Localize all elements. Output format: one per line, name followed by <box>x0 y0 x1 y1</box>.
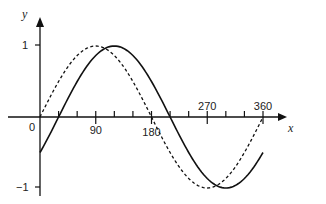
x-tick-label: 360 <box>254 100 272 112</box>
y-axis-label: y <box>21 7 28 21</box>
labels: y x 1 −1 <box>16 7 294 193</box>
y-label-one: 1 <box>22 39 28 51</box>
y-axis-arrow-icon <box>36 17 44 27</box>
x-tick-label: 270 <box>198 100 216 112</box>
sine-chart: y x 1 −1 090180270360 <box>0 0 326 204</box>
x-axis-arrow-icon <box>278 113 287 121</box>
x-tick-label: 90 <box>90 124 102 136</box>
axes <box>8 17 287 196</box>
x-tick-labels: 090180270360 <box>29 100 272 138</box>
x-axis-label: x <box>287 121 294 135</box>
y-label-neg-one: −1 <box>16 181 29 193</box>
x-tick-label: 0 <box>29 121 35 133</box>
x-tick-label: 180 <box>142 126 160 138</box>
